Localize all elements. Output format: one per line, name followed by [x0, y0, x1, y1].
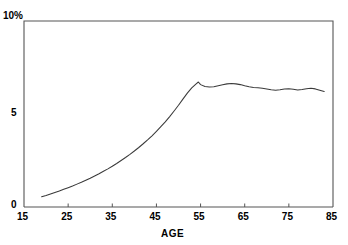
x-tick-label-75: 75 — [282, 212, 293, 222]
x-tick-label-15: 15 — [17, 212, 28, 222]
x-tick-label-35: 35 — [105, 212, 116, 222]
y-tick-label-0: 0 — [11, 200, 17, 210]
data-line-series-rate — [42, 82, 325, 197]
x-tick-label-25: 25 — [61, 212, 72, 222]
y-tick-label-5: 5 — [11, 108, 17, 118]
chart-plot-area — [0, 0, 348, 245]
x-tick-label-45: 45 — [149, 212, 160, 222]
x-tick-label-55: 55 — [194, 212, 205, 222]
x-axis-title: AGE — [161, 228, 184, 239]
x-tick-label-65: 65 — [238, 212, 249, 222]
plot-frame — [24, 21, 333, 207]
y-tick-label-10: 10% — [3, 11, 23, 21]
chart-figure: 10% 5 0 1525354555657585 AGE — [0, 0, 348, 245]
x-tick-label-85: 85 — [326, 212, 337, 222]
